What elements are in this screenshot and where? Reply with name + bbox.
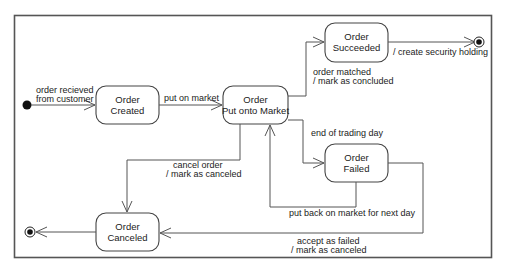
transition-create-holding <box>388 37 475 47</box>
state-succeeded-line2: Succeeded <box>333 42 381 53</box>
state-succeeded-line1: Order <box>344 31 368 42</box>
label-matched-2: / mark as concluded <box>313 76 394 86</box>
state-created-line1: Order <box>115 94 139 105</box>
state-canceled-line1: Order <box>115 221 139 232</box>
label-received-2: from customer <box>36 94 94 104</box>
label-create-holding: / create security holding <box>393 47 488 57</box>
state-order-failed[interactable]: Order Failed <box>325 144 388 182</box>
state-diagram: order recieved from customer Order Creat… <box>0 0 506 269</box>
state-failed-line1: Order <box>344 152 368 163</box>
label-accept-failed-2: / mark as canceled <box>291 245 367 255</box>
state-canceled-line2: Canceled <box>107 232 147 243</box>
initial-state-icon <box>23 101 32 110</box>
final-state-right-icon <box>474 37 484 47</box>
state-created-line2: Created <box>111 105 145 116</box>
state-failed-line2: Failed <box>344 163 370 174</box>
transition-canceled-final <box>36 227 96 237</box>
label-cancel-2: / mark as canceled <box>166 169 242 179</box>
state-order-canceled[interactable]: Order Canceled <box>96 213 159 251</box>
state-order-put-onto-market[interactable]: Order Put onto Market <box>222 86 289 124</box>
state-order-succeeded[interactable]: Order Succeeded <box>325 23 388 62</box>
state-order-created[interactable]: Order Created <box>96 86 159 124</box>
state-market-line2: Put onto Market <box>222 105 289 116</box>
final-state-left-icon <box>25 227 35 237</box>
state-market-line1: Order <box>243 94 267 105</box>
label-put-back: put back on market for next day <box>289 208 416 218</box>
label-end-of-day: end of trading day <box>311 128 384 138</box>
label-put-on-market: put on market <box>164 93 220 103</box>
